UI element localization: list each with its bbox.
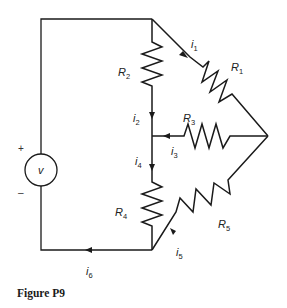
label-r1: R1 — [231, 61, 243, 76]
arrow-i4 — [149, 164, 155, 171]
figure-caption: Figure P9 — [17, 287, 65, 299]
arrow-i5 — [170, 228, 176, 235]
resistor-r5 — [152, 136, 268, 250]
label-i1: i1 — [191, 38, 198, 53]
label-r5: R5 — [218, 218, 230, 233]
resistor-r4 — [142, 136, 162, 250]
arrow-i2 — [149, 112, 155, 119]
arrow-i3 — [163, 133, 170, 139]
label-r3: R3 — [183, 112, 195, 127]
plus-sign: + — [18, 143, 24, 154]
source-label: v — [38, 164, 45, 176]
label-r4: R4 — [115, 206, 127, 221]
label-i6: i6 — [86, 265, 93, 280]
label-i4: i4 — [135, 155, 142, 170]
wire-top — [41, 19, 152, 154]
label-i3: i3 — [171, 145, 178, 160]
label-r2: R2 — [118, 66, 130, 81]
wire-bottom — [41, 186, 152, 250]
label-i2: i2 — [133, 112, 140, 127]
label-i5: i5 — [176, 246, 183, 261]
circuit-diagram: v + – R2 R1 R3 R4 R5 i1 i2 i3 i4 i5 i6 — [0, 0, 287, 308]
resistor-r1 — [152, 19, 268, 136]
minus-sign: – — [18, 187, 24, 198]
arrow-i6 — [85, 247, 92, 253]
